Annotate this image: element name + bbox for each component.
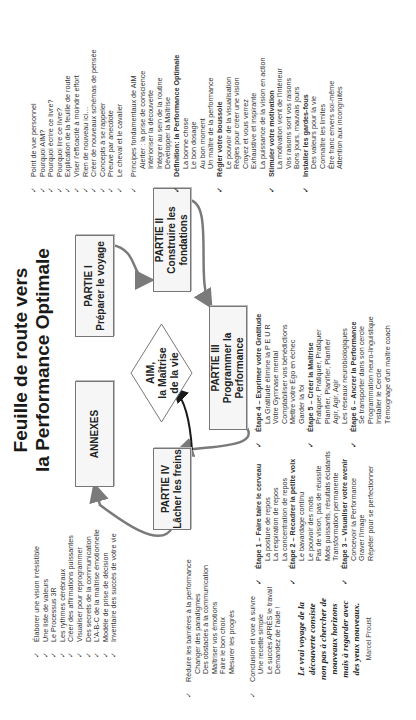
checkmark-icon: ✓	[268, 187, 277, 193]
list-item: Attention aux incongruités	[336, 55, 345, 193]
checkmark-icon: ✓	[116, 187, 125, 193]
quote-author: Marcel Proust	[363, 580, 374, 698]
partie-2-topics: ✓Principes fondamentaux de AIMAlerter : …	[130, 55, 345, 193]
checkmark-icon: ✓	[90, 187, 99, 193]
partie-1-topics: ✓Point de vue personnel✓Pourquoi AIM?✓Po…	[30, 50, 125, 193]
partie-4-subtitle: Lâcher les freins	[172, 449, 184, 528]
center-line-3: de la vie	[168, 352, 180, 393]
checkmark-icon: ✓	[107, 187, 116, 193]
arrow-partie1-to-partie2	[112, 245, 150, 280]
partie-1-label: PARTIE I	[83, 265, 95, 306]
checkmark-icon: ✓	[307, 442, 316, 448]
annexes-box[interactable]: ANNEXES	[75, 381, 114, 487]
partie-4-topics: ✓Réduire les barrières à la performanceC…	[185, 559, 283, 698]
partie-3-box[interactable]: PARTIE III Programmer la Performance	[209, 306, 247, 430]
checkmark-icon: ✓	[99, 187, 108, 193]
checkmark-icon: ✓	[50, 652, 59, 658]
quote-line: non pas à chercher de	[318, 580, 329, 698]
checkmark-icon: ✓	[59, 652, 68, 658]
partie-3-subtitle-1: Programmer la	[222, 333, 234, 404]
checkmark-icon: ✓	[47, 187, 56, 193]
checkmark-icon: ✓	[173, 187, 182, 193]
partie-2-subtitle-1: Construire les	[166, 206, 178, 273]
center-line-2: la Maîtrise	[156, 347, 168, 398]
checkmark-icon: ✓	[130, 187, 139, 193]
checkmark-icon: ✓	[255, 442, 264, 448]
checkmark-icon: ✓	[185, 692, 194, 698]
partie-1-box[interactable]: PARTIE I Préparer le voyage	[75, 235, 114, 337]
checkmark-icon: ✓	[85, 652, 94, 658]
checkmark-icon: ✓	[110, 652, 119, 658]
checkmark-icon: ✓	[216, 187, 225, 193]
checkmark-icon: ✓	[67, 652, 76, 658]
partie-2-subtitle-2: fondations	[178, 214, 190, 265]
quote-line: mais à regarder avec	[340, 580, 351, 698]
partie-2-label: PARTIE II	[154, 218, 166, 262]
list-item-text: Le cheval et le cavalier	[115, 104, 124, 177]
partie-3-steps-4-6: ✓Étape 4 – Exprimer votre GratitudeLa Gr…	[255, 314, 393, 448]
list-item-text: Mesurer les progrès	[227, 610, 236, 674]
quote-line: nouveaux horizons	[329, 580, 340, 698]
checkmark-icon: ✓	[39, 187, 48, 193]
arrow-partie2-to-partie3	[188, 200, 210, 305]
checkmark-icon: ✓	[42, 652, 51, 658]
list-item: Répéter pour se perfectionner	[367, 451, 376, 585]
partie-4-box[interactable]: PARTIE IV Lâcher les freins	[153, 448, 191, 530]
checkmark-icon: ✓	[82, 187, 91, 193]
annexes-label: ANNEXES	[89, 410, 101, 458]
partie-2-box[interactable]: PARTIE II Construire les fondations	[153, 188, 191, 292]
quote-line: des yeux nouveaux.	[351, 580, 362, 698]
list-item: Témoignage d'un maître coach	[384, 314, 393, 448]
checkmark-icon: ✓	[56, 187, 65, 193]
checkmark-icon: ✓	[33, 652, 42, 658]
checkmark-icon: ✓	[302, 187, 311, 193]
quote-line: découverte consiste	[307, 580, 318, 698]
quote-text: Le vrai voyage de ladécouverte consisten…	[296, 580, 362, 698]
center-diamond[interactable]: AIM, la Maîtrise de la vie	[130, 323, 193, 423]
list-item-text: Demandez de l'aide !	[273, 607, 282, 674]
checkmark-icon: ✓	[64, 187, 73, 193]
checkmark-icon: ✓	[93, 652, 102, 658]
checkmark-icon: ✓	[30, 187, 39, 193]
checkmark-icon: ✓	[350, 442, 359, 448]
roadmap-page: Feuille de route vers la Performance Opt…	[0, 0, 416, 720]
list-item: Demandez de l'aide !	[274, 559, 283, 698]
quote-line: Le vrai voyage de la	[296, 580, 307, 698]
partie-1-subtitle: Préparer le voyage	[95, 241, 107, 331]
center-line-1: AIM,	[144, 362, 156, 384]
list-item: ✓Le cheval et le cavalier	[116, 50, 125, 193]
list-item: Mettre votre Ego en échec	[289, 314, 298, 448]
list-item-text: Témoignage d'un maître coach	[383, 325, 392, 424]
annexes-topics: ✓Élaborer une vision irrésistible✓Une li…	[33, 529, 119, 658]
partie-3-label: PARTIE III	[210, 344, 222, 391]
list-item-text: Inventaire des succès de votre vie	[109, 533, 118, 642]
proust-quote: Le vrai voyage de ladécouverte consisten…	[296, 580, 374, 698]
checkmark-icon: ✓	[249, 692, 258, 698]
list-item-text: Répéter pour se perfectionner	[366, 466, 375, 562]
partie-3-subtitle-2: Performance	[234, 337, 246, 398]
list-item: Mesurer les progrès	[228, 559, 237, 698]
list-item: ✓Inventaire des succès de votre vie	[110, 529, 119, 658]
checkmark-icon: ✓	[76, 652, 85, 658]
list-item-text: Attention aux incongruités	[335, 86, 344, 169]
checkmark-icon: ✓	[102, 652, 111, 658]
partie-4-label: PARTIE IV	[160, 465, 172, 513]
checkmark-icon: ✓	[73, 187, 82, 193]
